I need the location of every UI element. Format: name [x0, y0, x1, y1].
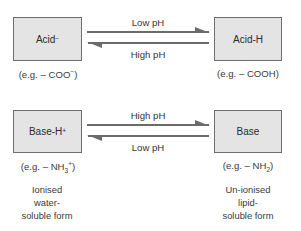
acid-unionised-example: (e.g. – COOH)	[200, 68, 296, 79]
base-reverse-arrow-label: Low pH	[88, 142, 208, 153]
acid-unionised-label: Acid-H	[233, 34, 263, 45]
base-ionised-charge: +	[62, 127, 66, 134]
acid-reverse-arrow-label: High pH	[88, 49, 208, 60]
acid-reverse-arrow-icon	[87, 42, 209, 48]
acid-ionised-box: Acid−	[13, 17, 82, 61]
base-unionised-label: Base	[237, 126, 260, 137]
base-unionised-box: Base	[214, 110, 282, 153]
base-reverse-arrow-icon	[87, 135, 209, 141]
acid-ionised-charge: −	[55, 35, 59, 42]
base-ionised-label: Base-H	[29, 126, 62, 137]
acid-ionised-label: Acid	[36, 34, 55, 45]
acid-ionised-example: (e.g. – COO−)	[0, 68, 96, 80]
unionised-form-description: Un-ionised lipid- soluble form	[203, 183, 293, 222]
base-ionised-example: (e.g. – NH3+)	[0, 160, 96, 174]
acid-forward-arrow-label: Low pH	[88, 17, 208, 28]
ionised-form-description: Ionised water- soluble form	[2, 183, 92, 222]
base-ionised-box: Base-H+	[13, 110, 82, 153]
base-unionised-example: (e.g. – NH2)	[200, 160, 296, 173]
acid-unionised-box: Acid-H	[214, 17, 282, 61]
base-forward-arrow-label: High pH	[88, 110, 208, 121]
